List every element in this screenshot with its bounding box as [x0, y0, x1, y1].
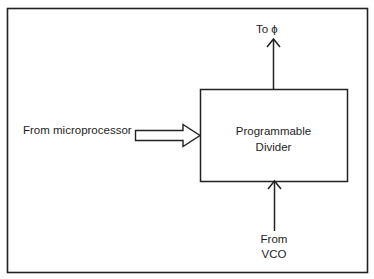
input-hollow-arrow-icon	[136, 125, 201, 147]
vco-label-line1: From	[244, 232, 304, 246]
diagram-canvas: To ϕ From microprocessor Programmable Di…	[0, 0, 374, 279]
input-label-microprocessor: From microprocessor	[23, 123, 132, 137]
output-label-to-phi: To ϕ	[256, 22, 278, 36]
block-label-line1: Programmable	[200, 124, 347, 138]
vco-label-line2: VCO	[244, 247, 304, 261]
block-label-line2: Divider	[200, 140, 347, 154]
output-arrow-up-icon	[267, 39, 280, 89]
vco-arrow-up-icon	[268, 181, 281, 231]
